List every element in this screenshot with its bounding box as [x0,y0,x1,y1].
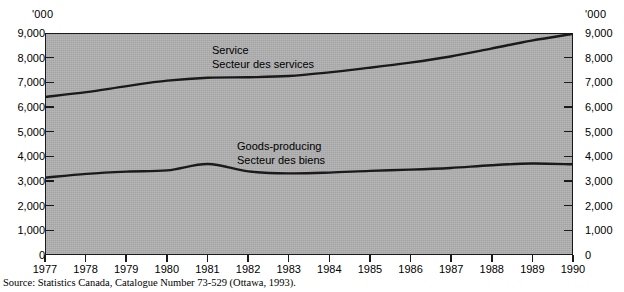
x-axis-tick-label-1982: 1982 [228,263,268,275]
y-axis-tickmark-left-7000 [45,82,54,84]
y-axis-tickmark-left-8000 [45,57,54,59]
x-axis-tick-label-1984: 1984 [309,263,349,275]
x-axis-tickmark-1980 [166,255,168,262]
x-axis-tickmark-1985 [369,255,371,262]
y-axis-tick-label-left-6000: 6,000 [17,101,45,113]
y-axis-tick-label-right-6000: 6,000 [585,101,613,113]
x-axis-tick-label-1981: 1981 [187,263,227,275]
series-annotation-goods-fr: Secteur des biens [237,154,325,168]
source-citation: Source: Statistics Canada, Catalogue Num… [3,277,296,288]
employment-line-chart: '000 '000 Service Secteur des services G… [0,0,624,292]
x-axis-tick-label-1978: 1978 [66,263,106,275]
x-axis-tickmark-1989 [532,255,534,262]
y-axis-tickmark-right-4000 [564,156,573,158]
y-axis-tickmark-right-1000 [564,230,573,232]
y-axis-tickmark-right-7000 [564,82,573,84]
series-annotation-service: Service Secteur des services [212,44,314,71]
y-axis-tick-label-left-2000: 2,000 [17,200,45,212]
x-axis-tick-label-1983: 1983 [269,263,309,275]
y-axis-tick-label-right-7000: 7,000 [585,76,613,88]
y-axis-tick-label-left-1000: 1,000 [17,224,45,236]
y-axis-tickmark-left-5000 [45,131,54,133]
x-axis-tickmark-1987 [450,255,452,262]
y-axis-unit-label-left: '000 [32,8,53,20]
y-axis-tickmark-left-6000 [45,106,54,108]
y-axis-tick-label-left-8000: 8,000 [17,52,45,64]
y-axis-tick-label-right-2000: 2,000 [585,200,613,212]
y-axis-tickmark-left-1000 [45,230,54,232]
x-axis-tickmark-1981 [207,255,209,262]
y-axis-tickmark-left-3000 [45,180,54,182]
x-axis-tick-label-1977: 1977 [25,263,65,275]
x-axis-tickmark-1988 [491,255,493,262]
x-axis-tickmark-1982 [247,255,249,262]
y-axis-tick-label-right-4000: 4,000 [585,150,613,162]
y-axis-tick-label-right-8000: 8,000 [585,52,613,64]
y-axis-tickmark-right-6000 [564,106,573,108]
x-axis-tick-label-1986: 1986 [391,263,431,275]
x-axis-tickmark-1977 [44,255,46,262]
y-axis-tick-label-left-9000: 9,000 [17,27,45,39]
x-axis-tickmark-1990 [572,255,574,262]
x-axis-tick-label-1979: 1979 [106,263,146,275]
y-axis-tick-label-right-9000: 9,000 [585,27,613,39]
x-axis-tick-label-1988: 1988 [472,263,512,275]
x-axis-tick-label-1987: 1987 [431,263,471,275]
y-axis-tick-label-left-5000: 5,000 [17,126,45,138]
y-axis-tickmark-right-3000 [564,180,573,182]
y-axis-tickmark-right-5000 [564,131,573,133]
series-annotation-goods-producing: Goods-producing Secteur des biens [237,140,325,167]
series-annotation-service-en: Service [212,44,314,58]
y-axis-tickmark-left-4000 [45,156,54,158]
y-axis-tick-label-left-4000: 4,000 [17,150,45,162]
y-axis-tick-label-right-3000: 3,000 [585,175,613,187]
x-axis-tickmark-1983 [288,255,290,262]
x-axis-tickmark-1978 [85,255,87,262]
y-axis-tickmark-right-8000 [564,57,573,59]
series-annotation-goods-en: Goods-producing [237,140,325,154]
x-axis-tick-label-1985: 1985 [350,263,390,275]
y-axis-tickmark-left-2000 [45,205,54,207]
x-axis-tick-label-1990: 1990 [553,263,593,275]
series-annotation-service-fr: Secteur des services [212,58,314,72]
y-axis-tick-label-left-3000: 3,000 [17,175,45,187]
y-axis-tick-label-right-1000: 1,000 [585,224,613,236]
x-axis-tick-label-1980: 1980 [147,263,187,275]
x-axis-tickmark-1986 [410,255,412,262]
y-axis-tick-label-right-0: 0 [585,249,591,261]
y-axis-tick-label-right-5000: 5,000 [585,126,613,138]
y-axis-tick-label-left-7000: 7,000 [17,76,45,88]
x-axis-tick-label-1989: 1989 [512,263,552,275]
x-axis-tickmark-1979 [125,255,127,262]
y-axis-tickmark-right-2000 [564,205,573,207]
y-axis-unit-label-right: '000 [585,8,606,20]
x-axis-tickmark-1984 [329,255,331,262]
